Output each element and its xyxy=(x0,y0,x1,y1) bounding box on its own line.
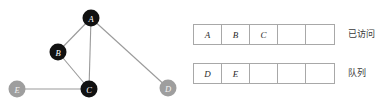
visited-array-row: ABC 已访问 xyxy=(193,24,375,45)
queue-array-row: DE 队列 xyxy=(193,63,366,84)
queue-array-cells: DE xyxy=(193,63,335,84)
queue-array-cell-3 xyxy=(278,64,306,83)
graph-node-label-e: E xyxy=(13,85,20,95)
graph-node-label-b: B xyxy=(55,48,60,58)
visited-array-label: 已访问 xyxy=(348,30,375,39)
graph-edge-layer xyxy=(17,18,168,89)
graph-node-d[interactable]: D xyxy=(160,80,177,97)
visited-array-cell-2: C xyxy=(250,25,278,44)
graph-traversal-illustration: ABCDE ABC 已访问 DE 队列 xyxy=(0,0,378,110)
queue-array-label: 队列 xyxy=(348,69,366,78)
graph-node-c[interactable]: C xyxy=(81,81,98,98)
graph-node-label-a: A xyxy=(87,14,94,24)
queue-array-cell-0: D xyxy=(194,64,222,83)
queue-array-cell-4 xyxy=(306,64,334,83)
graph-node-label-d: D xyxy=(164,84,172,94)
visited-array-cell-0: A xyxy=(194,25,222,44)
visited-array-cells: ABC xyxy=(193,24,335,45)
graph-edge-a-d xyxy=(91,18,168,88)
graph-node-b[interactable]: B xyxy=(50,44,67,61)
queue-array-cell-2 xyxy=(250,64,278,83)
visited-array-cell-1: B xyxy=(222,25,250,44)
visited-array-cell-4 xyxy=(306,25,334,44)
graph-node-a[interactable]: A xyxy=(83,10,100,27)
graph-node-label-c: C xyxy=(86,85,92,95)
graph-node-layer: ABCDE xyxy=(9,10,177,98)
graph-canvas: ABCDE xyxy=(0,0,189,110)
queue-array-cell-1: E xyxy=(222,64,250,83)
graph-panel: ABCDE xyxy=(0,0,189,110)
graph-node-e[interactable]: E xyxy=(9,81,26,98)
graph-edge-a-c xyxy=(89,18,91,89)
visited-array-cell-3 xyxy=(278,25,306,44)
arrays-panel: ABC 已访问 DE 队列 xyxy=(189,0,378,110)
